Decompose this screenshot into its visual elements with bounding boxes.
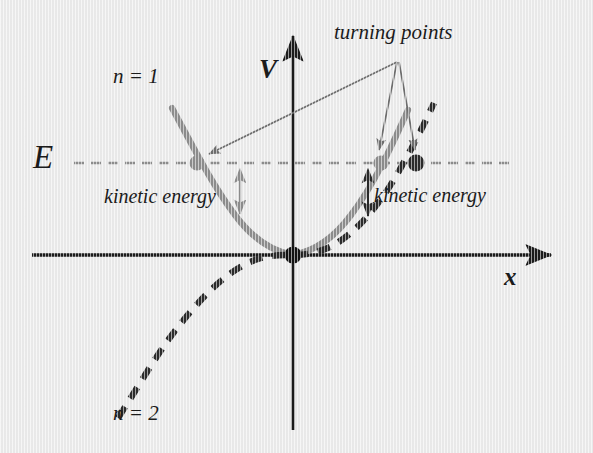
- curve-label-n2: n = 2: [113, 403, 159, 424]
- x-axis-label: x: [504, 264, 517, 289]
- pointer-to-right-n2-turning-point: [399, 62, 415, 150]
- kinetic-energy-label-left: kinetic energy: [104, 186, 216, 206]
- diagram-canvas: [0, 0, 593, 453]
- turning-point-n2-right-dot: [408, 155, 425, 172]
- turning-points-label: turning points: [334, 22, 452, 43]
- kinetic-energy-label-right: kinetic energy: [374, 185, 486, 205]
- curve-label-n1: n = 1: [113, 66, 159, 87]
- v-axis-label: V: [259, 56, 277, 83]
- turning-point-pointers: [209, 62, 415, 154]
- turning-point-n1-left-dot: [189, 155, 204, 170]
- axis-group: [32, 36, 551, 430]
- origin-dot: [284, 246, 301, 263]
- marker-group: [189, 155, 424, 264]
- potential-energy-diagram: turning points V x E n = 1 n = 2 kinetic…: [0, 0, 593, 453]
- turning-point-n1-right-dot: [373, 155, 388, 170]
- pointer-to-left-turning-point: [209, 62, 397, 154]
- curve-n1: [172, 108, 408, 255]
- energy-level-label: E: [33, 141, 53, 174]
